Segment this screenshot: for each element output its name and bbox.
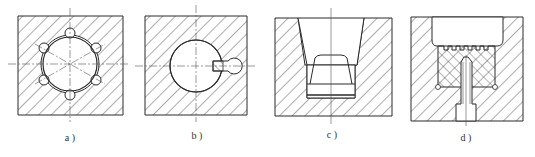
caption-c: c ) <box>327 129 337 140</box>
caption-b: b ) <box>192 130 203 141</box>
caption-d: d ) <box>461 132 472 143</box>
top-cavity <box>432 17 503 46</box>
panel-a <box>8 8 130 122</box>
figure-drawing <box>0 0 535 157</box>
panel-c <box>275 8 392 124</box>
panel-d <box>411 17 523 126</box>
caption-a: a ) <box>65 132 75 143</box>
panel-b <box>135 5 255 122</box>
